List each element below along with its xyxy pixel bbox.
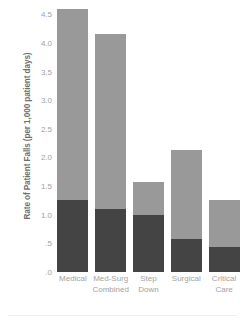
y-tick-label: .5: [26, 239, 52, 248]
y-axis-tick-labels: .0.51.01.52.02.53.03.54.04.5: [26, 0, 52, 283]
bar-segment-lower[interactable]: [133, 215, 164, 272]
y-tick-label: 1.5: [26, 182, 52, 191]
bar-slot: [171, 0, 202, 272]
bar-slot: [209, 0, 240, 272]
y-tick-label: 2.0: [26, 153, 52, 162]
bar-slot: [95, 0, 126, 272]
x-axis-label-line: Care: [205, 285, 243, 296]
x-axis-label: Med-SurgCombined: [92, 274, 130, 295]
y-tick-label: .0: [26, 268, 52, 277]
stacked-bar[interactable]: [95, 34, 126, 272]
plot-area: [54, 0, 243, 272]
bar-segment-lower[interactable]: [171, 239, 202, 272]
x-axis-category-labels: MedicalMed-SurgCombinedStepDownSurgicalC…: [54, 274, 243, 314]
bar-segment-upper[interactable]: [95, 34, 126, 209]
y-tick-label: 2.5: [26, 124, 52, 133]
bar-slot: [133, 0, 164, 272]
bar-segment-upper[interactable]: [57, 9, 88, 201]
x-axis-label-line: Med-Surg: [92, 274, 130, 285]
y-tick-label: 4.5: [26, 10, 52, 19]
x-axis-label: Surgical: [167, 274, 205, 285]
x-axis-label: CriticalCare: [205, 274, 243, 295]
bar-slot: [57, 0, 88, 272]
x-axis-label: Medical: [54, 274, 92, 285]
bar-chart: Rate of Patient Falls (per 1,000 patient…: [0, 0, 245, 323]
x-axis-label-line: Down: [130, 285, 168, 296]
x-axis-label: StepDown: [130, 274, 168, 295]
stacked-bar[interactable]: [171, 150, 202, 272]
stacked-bar[interactable]: [133, 182, 164, 272]
y-tick-label: 1.0: [26, 210, 52, 219]
x-axis-label-line: Combined: [92, 285, 130, 296]
bar-segment-lower[interactable]: [95, 209, 126, 272]
bar-segment-upper[interactable]: [133, 182, 164, 215]
y-tick-label: 4.0: [26, 38, 52, 47]
y-tick-label: 3.5: [26, 67, 52, 76]
bar-segment-upper[interactable]: [171, 150, 202, 239]
x-axis-label-line: Critical: [205, 274, 243, 285]
x-axis-label-line: Step: [130, 274, 168, 285]
y-tick-label: 3.0: [26, 96, 52, 105]
bottom-divider: [8, 315, 237, 316]
stacked-bar[interactable]: [209, 200, 240, 272]
bar-segment-lower[interactable]: [57, 200, 88, 272]
stacked-bar[interactable]: [57, 9, 88, 272]
bar-segment-lower[interactable]: [209, 247, 240, 272]
bar-segment-upper[interactable]: [209, 200, 240, 247]
x-axis-label-line: Surgical: [167, 274, 205, 285]
x-axis-label-line: Medical: [54, 274, 92, 285]
